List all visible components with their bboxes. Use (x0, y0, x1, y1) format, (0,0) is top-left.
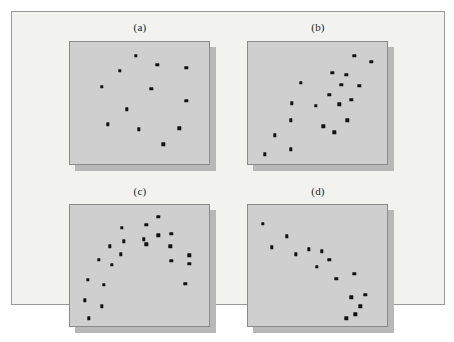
scatter-point (118, 69, 121, 72)
scatter-point (170, 259, 173, 262)
scatter-point (83, 299, 86, 302)
scatter-point (108, 245, 111, 248)
scatter-point (358, 305, 361, 308)
scatter-point (145, 223, 148, 226)
scatter-point (345, 73, 348, 76)
scatter-point (162, 142, 165, 145)
scatter-point (299, 81, 302, 84)
scatter-point (369, 60, 372, 63)
scatter-point (100, 85, 103, 88)
scatter-panel-a (69, 41, 210, 165)
scatter-point (270, 246, 273, 249)
scatter-point (340, 83, 343, 86)
scatter-point (357, 84, 360, 87)
scatter-point (263, 152, 266, 155)
scatter-point (185, 66, 188, 69)
scatter-point (169, 245, 172, 248)
scatter-point (157, 215, 160, 218)
scatter-point (328, 258, 331, 261)
scatter-point (178, 127, 181, 130)
scatter-point (363, 293, 366, 296)
scatter-point (97, 258, 100, 261)
scatter-point (87, 316, 90, 319)
scatter-point (294, 253, 297, 256)
panel-plot-area-d (247, 204, 388, 327)
scatter-point (333, 131, 336, 134)
scatter-point (102, 283, 105, 286)
scatter-point (137, 128, 140, 131)
scatter-point (142, 238, 145, 241)
scatter-point (145, 243, 148, 246)
scatter-point (86, 278, 89, 281)
scatter-point (322, 125, 325, 128)
scatter-point (150, 87, 153, 90)
scatter-point (156, 63, 159, 66)
scatter-point (352, 54, 355, 57)
panel-label-a: (a) (69, 21, 211, 33)
scatter-point (100, 305, 103, 308)
scatter-point (331, 71, 334, 74)
scatter-point (273, 134, 276, 137)
scatter-point (290, 102, 293, 105)
scatter-point (315, 265, 318, 268)
scatter-panel-c (69, 204, 210, 327)
scatter-point (170, 232, 173, 235)
scatter-point (350, 296, 353, 299)
scatter-point (120, 226, 123, 229)
scatter-point (314, 104, 317, 107)
panel-label-d: (d) (247, 185, 389, 197)
scatter-point (119, 253, 122, 256)
scatter-point (184, 282, 187, 285)
scatter-point (187, 262, 190, 265)
panel-label-c: (c) (69, 185, 211, 197)
scatter-point (346, 119, 349, 122)
scatter-point (285, 235, 288, 238)
scatter-point (125, 108, 128, 111)
figure-root: (a) (b) (c) (d) (0, 0, 454, 342)
scatter-point (289, 147, 292, 150)
scatter-panel-b (247, 41, 388, 165)
panel-plot-area-a (69, 41, 210, 165)
scatter-point (157, 234, 160, 237)
panel-plot-area-b (247, 41, 388, 165)
scatter-point (345, 316, 348, 319)
scatter-point (185, 99, 188, 102)
panel-label-b: (b) (247, 21, 389, 33)
scatter-point (328, 93, 331, 96)
scatter-point (134, 54, 137, 57)
scatter-point (261, 222, 264, 225)
scatter-point (335, 277, 338, 280)
scatter-point (353, 312, 356, 315)
scatter-point (307, 248, 310, 251)
scatter-point (350, 98, 353, 101)
scatter-panel-d (247, 204, 388, 327)
scatter-point (187, 254, 190, 257)
scatter-point (289, 119, 292, 122)
panel-plot-area-c (69, 204, 210, 327)
scatter-point (106, 123, 109, 126)
scatter-point (338, 103, 341, 106)
scatter-point (352, 272, 355, 275)
scatter-point (110, 263, 113, 266)
scatter-point (320, 250, 323, 253)
scatter-point (122, 240, 125, 243)
